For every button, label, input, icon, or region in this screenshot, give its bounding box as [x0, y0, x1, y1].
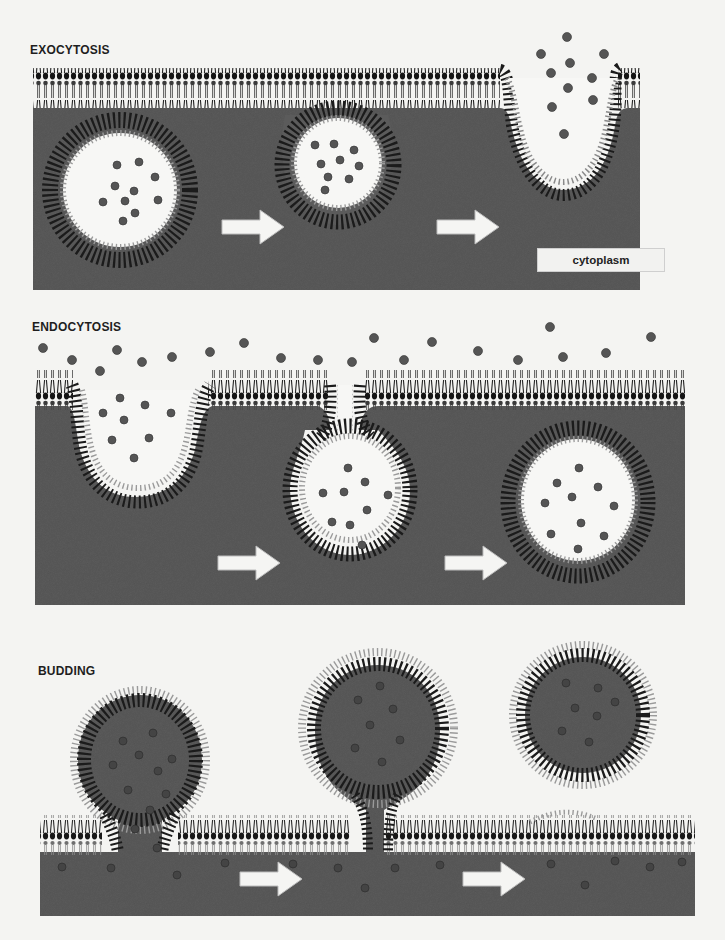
membrane-diagram: [0, 0, 725, 940]
budding-membrane: [40, 815, 102, 855]
endocytosis-panel: [35, 323, 685, 606]
endocytosis-membrane: [35, 370, 73, 410]
cytoplasm-label: cytoplasm: [537, 248, 665, 272]
budding-cytoplasm: [40, 852, 695, 916]
budding-vesicle-3: [513, 645, 653, 785]
exocytosis-membrane: [33, 68, 500, 108]
budding-panel: [40, 645, 695, 916]
